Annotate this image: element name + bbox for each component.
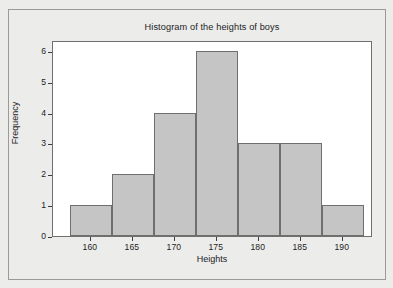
plot-area	[52, 41, 372, 237]
x-axis-tick-label: 185	[280, 242, 320, 252]
y-axis-tick-label: 1	[24, 201, 46, 210]
histogram-bar	[280, 143, 322, 236]
x-axis-tick-label: 170	[154, 242, 194, 252]
bar-group	[53, 42, 371, 236]
histogram-bar	[238, 143, 280, 236]
histogram-bar	[70, 205, 112, 236]
y-axis-tick-label: 3	[24, 139, 46, 148]
histogram-screenshot: Histogram of the heights of boys Frequen…	[0, 0, 393, 288]
x-axis-title: Heights	[52, 254, 372, 264]
x-axis-tick-label: 160	[70, 242, 110, 252]
x-axis-tick-mark	[174, 237, 175, 241]
histogram-bar	[154, 113, 196, 236]
y-axis-tick-label: 4	[24, 109, 46, 118]
histogram-bar	[322, 205, 364, 236]
x-axis-tick-mark	[132, 237, 133, 241]
x-axis-tick-label: 165	[112, 242, 152, 252]
y-axis-tick-label: 2	[24, 170, 46, 179]
x-axis-tick-mark	[258, 237, 259, 241]
histogram-bar	[196, 51, 238, 236]
x-axis-tick-mark	[90, 237, 91, 241]
x-axis-tick-mark	[300, 237, 301, 241]
x-axis-tick-label: 190	[322, 242, 362, 252]
y-axis-tick-mark	[48, 237, 52, 238]
y-axis-tick-label: 6	[24, 47, 46, 56]
x-axis-tick-mark	[216, 237, 217, 241]
y-axis-tick-label: 5	[24, 78, 46, 87]
chart-title: Histogram of the heights of boys	[52, 22, 372, 32]
y-axis-tick-label: 0	[24, 232, 46, 241]
histogram-bar	[112, 174, 154, 236]
x-axis-tick-label: 175	[196, 242, 236, 252]
x-axis-tick-mark	[342, 237, 343, 241]
x-axis-tick-label: 180	[238, 242, 278, 252]
y-axis-title: Frequency	[10, 88, 20, 158]
